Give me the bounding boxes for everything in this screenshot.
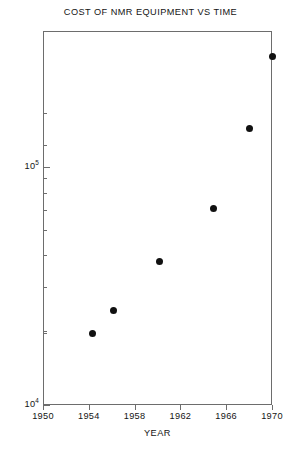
- y-label-exponent-1e4: 4: [35, 397, 39, 404]
- x-axis-label-1950: 1950: [21, 411, 65, 421]
- x-tick-1950: [43, 405, 44, 410]
- y-label-mantissa-1e5: 10: [25, 161, 36, 171]
- data-point: [110, 307, 117, 314]
- data-point: [89, 330, 96, 337]
- data-point: [210, 205, 217, 212]
- data-point: [246, 125, 253, 132]
- chart-title: COST OF NMR EQUIPMENT VS TIME: [0, 7, 301, 17]
- x-tick-1954: [89, 405, 90, 410]
- data-point: [156, 258, 163, 265]
- x-tick-1958: [135, 405, 136, 410]
- x-axis-title: YEAR: [0, 428, 301, 438]
- x-tick-1962: [180, 405, 181, 410]
- x-axis-label-1958: 1958: [113, 411, 157, 421]
- x-tick-1970: [272, 405, 273, 410]
- data-point: [269, 53, 276, 60]
- x-axis-label-1970: 1970: [250, 411, 294, 421]
- y-label-exponent-1e5: 5: [35, 159, 39, 166]
- y-axis-label-1e5: 105: [25, 161, 39, 171]
- chart-figure: COST OF NMR EQUIPMENT VS TIME 105 104 CO…: [0, 0, 301, 454]
- y-label-mantissa-1e4: 10: [25, 399, 36, 409]
- x-axis-label-1954: 1954: [67, 411, 111, 421]
- x-axis-label-1966: 1966: [204, 411, 248, 421]
- y-axis-label-1e4: 104: [25, 399, 39, 409]
- x-axis-label-1962: 1962: [158, 411, 202, 421]
- x-tick-1966: [226, 405, 227, 410]
- data-points-layer: [43, 31, 272, 405]
